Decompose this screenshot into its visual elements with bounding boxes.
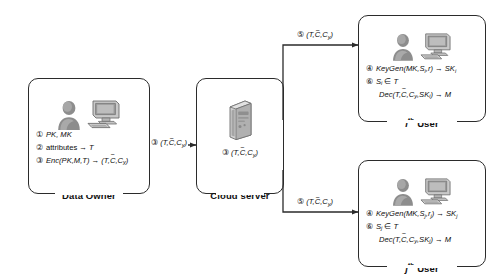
cloud-server-steps: ③ (T,C~,Cy) bbox=[197, 147, 283, 160]
step-line: ④KeyGen(MK,Sj,rj) → SKj bbox=[366, 208, 480, 220]
jth-user-steps: ④KeyGen(MK,Sj,rj) → SKj ⑥Sj ∈ T Dec(T,C~… bbox=[366, 208, 480, 246]
step-line: ③ (T,C~,Cy) bbox=[197, 147, 283, 159]
entity-caption: jth User bbox=[359, 262, 485, 274]
step-line: ③Enc(PK,M,T) → (T,C~,Cy) bbox=[36, 155, 144, 167]
ith-user-steps: ④KeyGen(MK,Si,r) → SKi ⑥Si ∈ T Dec(T,C~,… bbox=[366, 63, 480, 101]
desktop-computer-icon bbox=[419, 32, 453, 62]
server-tower-icon bbox=[225, 99, 255, 141]
entity-cloud-server: ③ (T,C~,Cy) Cloud server bbox=[196, 78, 284, 194]
edge-label-cloud-to-ith-user: ⑤ (T,C~,Cy) bbox=[296, 30, 334, 39]
desktop-computer-icon bbox=[86, 99, 122, 131]
user-icon bbox=[391, 32, 415, 62]
user-icon bbox=[56, 99, 82, 131]
entity-caption: Data Owner bbox=[29, 190, 149, 201]
user-icon bbox=[391, 177, 415, 207]
cloud-server-icons bbox=[197, 97, 283, 141]
step-line: ④KeyGen(MK,Si,r) → SKi bbox=[366, 63, 480, 75]
jth-user-icons bbox=[359, 165, 485, 207]
entity-jth-user: ④KeyGen(MK,Sj,rj) → SKj ⑥Sj ∈ T Dec(T,C~… bbox=[358, 160, 486, 267]
edge-label-cloud-to-jth-user: ⑤ (T,C~,Cy) bbox=[296, 197, 334, 206]
desktop-computer-icon bbox=[419, 177, 453, 207]
entity-ith-user: ④KeyGen(MK,Si,r) → SKi ⑥Si ∈ T Dec(T,C~,… bbox=[358, 15, 486, 122]
step-line: ②attributes → T bbox=[36, 142, 144, 154]
step-line: ①PK, MK bbox=[36, 129, 144, 141]
edge-label-owner-to-cloud: ③ (T,C~,Cy) bbox=[150, 138, 188, 147]
step-line: ⑥Sj ∈ T bbox=[366, 221, 480, 233]
data-owner-icons bbox=[29, 85, 149, 131]
entity-caption: ith User bbox=[359, 117, 485, 129]
entity-caption: Cloud server bbox=[197, 190, 283, 201]
arrow-cloud-to-ith-user bbox=[283, 45, 358, 120]
data-owner-steps: ①PK, MK ②attributes → T ③Enc(PK,M,T) → (… bbox=[36, 129, 144, 167]
diagram-canvas: ①PK, MK ②attributes → T ③Enc(PK,M,T) → (… bbox=[0, 0, 500, 279]
entity-data-owner: ①PK, MK ②attributes → T ③Enc(PK,M,T) → (… bbox=[28, 78, 150, 194]
ith-user-icons bbox=[359, 20, 485, 62]
step-line: Dec(T,C~,Cy,SKi) → M bbox=[366, 89, 480, 101]
step-line: Dec(T,C~,Cy,SKj) → M bbox=[366, 234, 480, 246]
step-line: ⑥Si ∈ T bbox=[366, 76, 480, 88]
